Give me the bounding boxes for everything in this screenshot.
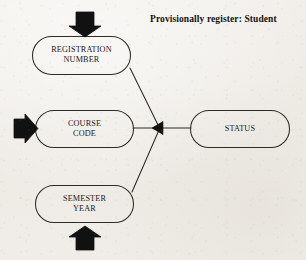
- connector-semester-to-junction: [132, 130, 159, 192]
- node-registration-number[interactable]: [33, 37, 131, 75]
- page-title: Provisionally register: Student: [150, 14, 277, 24]
- diagram-canvas: Provisionally register: Student REGISTRA…: [0, 0, 306, 260]
- down-arrow-icon[interactable]: [69, 12, 101, 37]
- node-semester-year[interactable]: [36, 186, 134, 223]
- node-status[interactable]: [191, 111, 290, 148]
- node-course-code[interactable]: [36, 111, 134, 148]
- connector-registration-to-junction: [130, 68, 159, 127]
- right-arrow-icon[interactable]: [14, 114, 38, 143]
- diagram-vector-layer: [0, 0, 306, 260]
- up-arrow-icon[interactable]: [69, 226, 101, 250]
